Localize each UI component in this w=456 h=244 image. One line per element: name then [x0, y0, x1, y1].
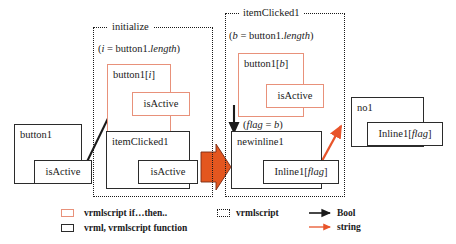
- legend-arrows: [0, 0, 456, 244]
- legend-label-bool: Bool: [337, 209, 355, 219]
- legend-label-string: string: [337, 223, 361, 233]
- diagram-canvas: initialize (i = button1.length) itemClic…: [0, 0, 456, 244]
